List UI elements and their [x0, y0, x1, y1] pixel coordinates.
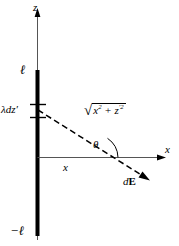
- radical-sign: √: [84, 102, 92, 118]
- x-axis-label: x: [165, 144, 170, 155]
- rod-bottom-endpoint-label: −ℓ: [10, 224, 24, 237]
- field-vector-arrowhead: [139, 172, 151, 181]
- radicand-term2-exponent: 2: [120, 103, 123, 110]
- z-axis-label: z: [33, 2, 37, 13]
- charge-element-label: λdz′: [1, 104, 18, 115]
- radicand-term1-exponent: 2: [98, 103, 101, 110]
- theta-angle-arc: [108, 138, 119, 157]
- diagram-canvas: [0, 0, 179, 246]
- field-vector-label: dE: [123, 176, 136, 187]
- distance-expression: √x2 + z′2: [84, 103, 126, 118]
- field-direction-dashed-line: [38, 110, 143, 176]
- theta-angle-label: θ: [93, 139, 98, 150]
- radicand-operator: +: [104, 104, 111, 116]
- physics-diagram: z x ℓ −ℓ λdz′ θ x dE √x2 + z′2: [0, 0, 179, 246]
- x-axis-arrowhead: [157, 155, 166, 161]
- horizontal-distance-label: x: [63, 162, 68, 173]
- rod-top-endpoint-label: ℓ: [20, 63, 25, 76]
- field-vector-symbol: E: [129, 175, 136, 187]
